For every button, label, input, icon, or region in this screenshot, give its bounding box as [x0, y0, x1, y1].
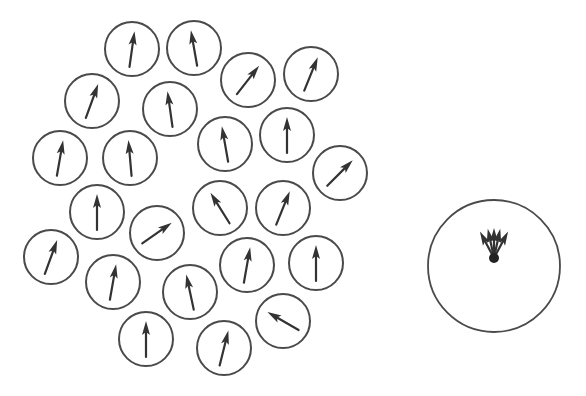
- domain-cell: [256, 181, 310, 235]
- domain-cell: [197, 321, 251, 375]
- spin-arrow-icon: [140, 219, 174, 246]
- domain-cell: [130, 206, 184, 260]
- domain-cell: [193, 181, 247, 235]
- spin-arrow-icon: [53, 140, 67, 177]
- domain-cell: [260, 108, 314, 162]
- domain-cell: [167, 21, 221, 75]
- spin-arrow-icon: [82, 83, 102, 120]
- spin-arrow-icon: [164, 91, 177, 128]
- spin-arrow-icon: [124, 140, 135, 177]
- spin-arrow-icon: [265, 309, 300, 334]
- spin-arrow-icon: [207, 191, 233, 226]
- spin-arrow-icon: [182, 274, 197, 311]
- domain-cell: [86, 255, 140, 309]
- spin-arrow-icon: [126, 31, 139, 68]
- spin-arrow-icon: [324, 157, 355, 188]
- spin-arrow-icon: [106, 264, 120, 301]
- domain-cell: [198, 117, 252, 171]
- domain-cell: [105, 22, 159, 76]
- domain-cell: [70, 185, 124, 239]
- spin-arrow-icon: [312, 245, 320, 281]
- large-domain-circle: [428, 200, 560, 332]
- spin-arrow-icon: [283, 117, 291, 153]
- spin-arrow-icon: [41, 239, 61, 276]
- spin-arrow-icon: [240, 247, 254, 284]
- spin-arrow-icon: [187, 30, 201, 67]
- spin-arrow-icon: [142, 321, 150, 357]
- diagram-canvas: [0, 0, 586, 396]
- pivot-dot: [489, 253, 499, 263]
- spin-arrow-icon: [93, 194, 101, 230]
- domain-cell: [33, 131, 87, 185]
- domain-cell: [143, 82, 197, 136]
- spin-arrow-icon: [234, 63, 262, 96]
- disordered-domain-cluster: [24, 21, 367, 375]
- aligned-domain: [428, 200, 560, 332]
- domain-cell: [119, 312, 173, 366]
- domain-cell: [256, 294, 310, 348]
- domain-cell: [221, 53, 275, 107]
- spin-arrow-icon: [216, 330, 232, 367]
- domain-cell: [220, 238, 274, 292]
- domain-cell: [163, 265, 217, 319]
- domain-cell: [65, 74, 119, 128]
- spin-arrow-icon: [218, 126, 232, 163]
- domain-cell: [284, 47, 338, 101]
- domain-cell: [313, 146, 367, 200]
- spin-arrow-icon: [301, 56, 322, 92]
- domain-cell: [289, 236, 343, 290]
- domain-cell: [24, 230, 78, 284]
- spin-arrow-icon: [273, 190, 294, 226]
- domain-cell: [103, 131, 157, 185]
- magnetic-domains-diagram: [0, 0, 586, 396]
